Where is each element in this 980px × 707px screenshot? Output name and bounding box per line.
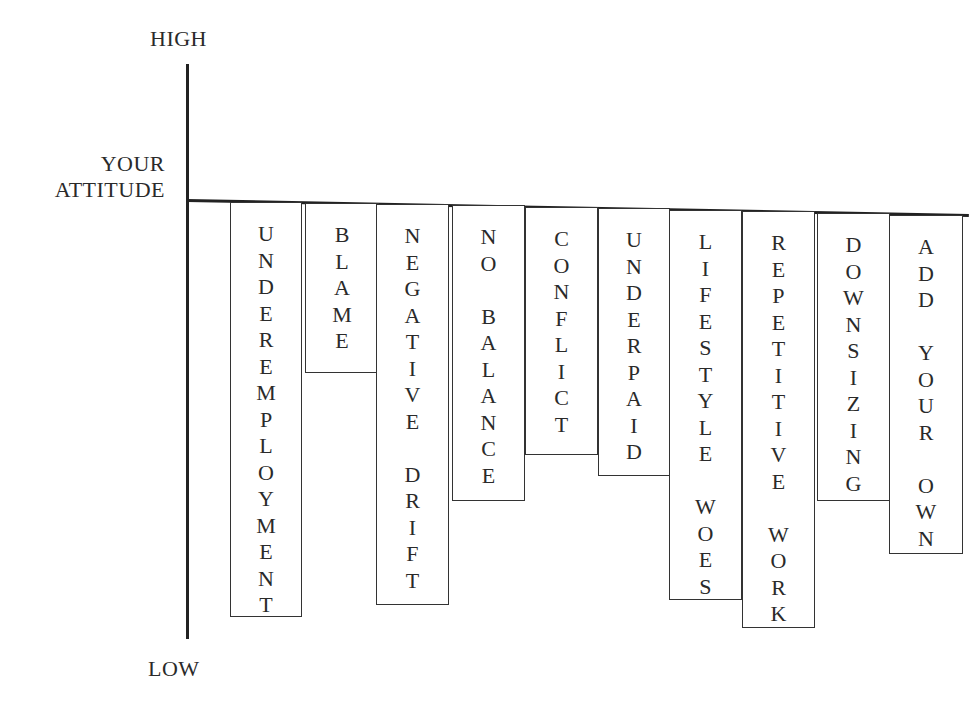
vertical-axis <box>186 64 189 639</box>
bar-label: NO BALANCE <box>481 224 497 500</box>
bar-add-your-own: ADD YOUR OWN <box>889 215 963 554</box>
bar-blame: BLAME <box>305 203 379 373</box>
bar-underemployment: UNDEREMPLOYMENT <box>230 202 302 617</box>
axis-label-your: YOUR <box>30 151 165 177</box>
bar-label: UNDERPAID <box>626 227 642 475</box>
bar-label: NEGATIVE DRIFT <box>405 223 421 604</box>
bar-label: ADD YOUR OWN <box>916 234 937 553</box>
bar-label: DOWNSIZING <box>843 232 864 500</box>
bar-label: UNDEREMPLOYMENT <box>256 221 276 616</box>
bar-repetitive-work: REPETITIVE WORK <box>742 211 815 628</box>
bar-underpaid: UNDERPAID <box>598 208 670 476</box>
bar-conflict: CONFLICT <box>525 207 598 455</box>
bar-lifestyle-woes: LIFESTYLE WOES <box>669 210 742 600</box>
bar-label: LIFESTYLE WOES <box>695 229 716 599</box>
axis-label-low: LOW <box>148 656 200 682</box>
bar-label: BLAME <box>332 222 352 372</box>
axis-label-high: HIGH <box>150 26 207 52</box>
axis-label-attitude: ATTITUDE <box>30 177 165 203</box>
axis-label-your-attitude: YOUR ATTITUDE <box>30 151 165 203</box>
bar-downsizing: DOWNSIZING <box>817 213 890 501</box>
bar-label: REPETITIVE WORK <box>768 230 789 627</box>
bar-negative-drift: NEGATIVE DRIFT <box>376 204 449 605</box>
bar-no-balance: NO BALANCE <box>452 205 525 501</box>
bar-label: CONFLICT <box>554 226 570 454</box>
